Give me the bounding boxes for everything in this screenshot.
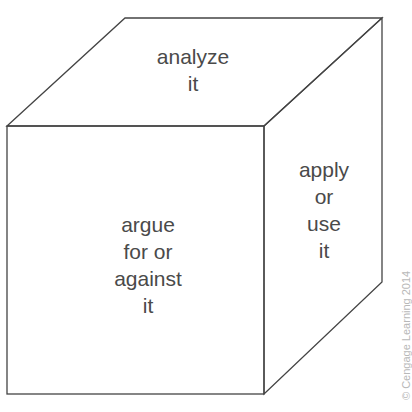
side-face-label: apply or use it xyxy=(299,156,349,264)
top-face-line: it xyxy=(157,70,229,97)
front-face-line: for or xyxy=(114,238,182,265)
top-face-line: analyze xyxy=(157,43,229,70)
top-face-label: analyze it xyxy=(157,43,229,97)
side-face-line: it xyxy=(299,237,349,264)
side-face-line: use xyxy=(299,210,349,237)
front-face-line: argue xyxy=(114,211,182,238)
copyright-notice: © Cengage Learning 2014 xyxy=(400,271,412,400)
side-face-line: or xyxy=(299,183,349,210)
front-face-line: against xyxy=(114,265,182,292)
front-face-label: argue for or against it xyxy=(114,211,182,319)
side-face-line: apply xyxy=(299,156,349,183)
front-face-line: it xyxy=(114,292,182,319)
